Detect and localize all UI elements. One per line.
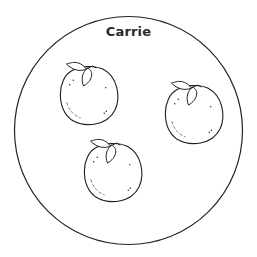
orange-icon — [60, 62, 117, 124]
orange-icon — [84, 139, 141, 201]
orange-icon — [165, 81, 222, 143]
set-card: Carrie — [0, 0, 257, 257]
set-title: Carrie — [0, 24, 257, 39]
